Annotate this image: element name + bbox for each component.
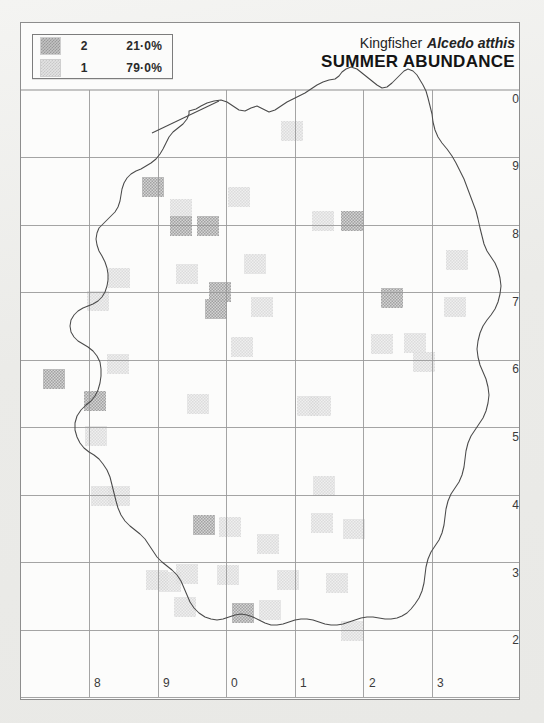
map-frame (20, 22, 520, 700)
y-axis-tick: 8 (512, 227, 519, 241)
y-axis-tick: 6 (512, 362, 519, 376)
dark-hatch-swatch (40, 37, 61, 55)
legend-value: 2 (61, 39, 107, 53)
map-subtitle: SUMMER ABUNDANCE (321, 52, 515, 71)
y-axis-tick: 4 (512, 498, 519, 512)
scientific-name: Alcedo atthis (422, 35, 515, 51)
y-axis-tick: 5 (512, 430, 519, 444)
y-axis-tick: 9 (512, 159, 519, 173)
x-axis-tick: 8 (94, 676, 101, 690)
distribution-map[interactable] (21, 23, 519, 699)
legend-percent: 79·0% (107, 61, 172, 75)
x-axis-tick: 2 (369, 676, 376, 690)
y-axis-tick: 0 (512, 92, 519, 106)
x-axis-tick: 9 (163, 676, 170, 690)
x-axis-tick: 1 (300, 676, 307, 690)
x-axis-tick: 3 (437, 676, 444, 690)
common-name: Kingfisher (360, 35, 422, 51)
y-axis-tick: 2 (512, 633, 519, 647)
light-hatch-swatch (40, 59, 61, 77)
x-axis-tick: 0 (231, 676, 238, 690)
y-axis-tick: 7 (512, 295, 519, 309)
legend-box: 2 21·0% 1 79·0% (32, 34, 173, 79)
legend-percent: 21·0% (107, 39, 172, 53)
legend-row: 2 21·0% (33, 35, 172, 57)
legend-row: 1 79·0% (33, 57, 172, 79)
species-name-line: KingfisherAlcedo atthis (321, 35, 515, 52)
map-page: 2 21·0% 1 79·0% KingfisherAlcedo atthis … (0, 0, 544, 723)
legend-value: 1 (61, 61, 107, 75)
map-title: KingfisherAlcedo atthis SUMMER ABUNDANCE (321, 35, 515, 71)
y-axis-tick: 3 (512, 566, 519, 580)
